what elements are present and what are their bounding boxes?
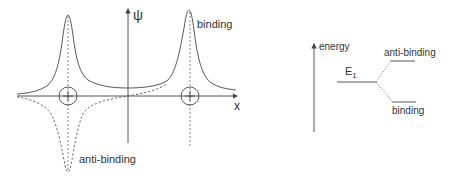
anti-binding-label: anti-binding bbox=[79, 153, 136, 165]
split-down-connector bbox=[376, 82, 392, 101]
e1-label: E1 bbox=[345, 65, 357, 80]
wavefunction-plot: x ψ binding anti-binding bbox=[17, 7, 240, 172]
psi-axis-label: ψ bbox=[133, 7, 143, 23]
x-axis-label: x bbox=[234, 99, 240, 113]
split-up-connector bbox=[376, 62, 390, 82]
binding-label: binding bbox=[197, 18, 232, 30]
energy-diagram: energy E1 anti-binding binding bbox=[314, 41, 436, 132]
anti-binding-level-label: anti-binding bbox=[384, 47, 436, 58]
binding-level-label: binding bbox=[392, 105, 424, 116]
energy-axis-label: energy bbox=[319, 41, 350, 52]
diagram-canvas: x ψ binding anti-binding energy bbox=[0, 0, 453, 184]
